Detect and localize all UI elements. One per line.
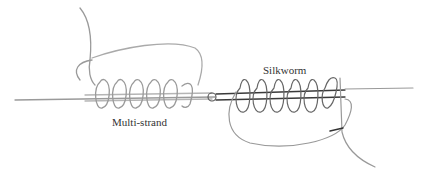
multi-strand-tag-end bbox=[80, 8, 95, 85]
knot-drawing bbox=[0, 0, 425, 177]
silkworm-standing-line bbox=[345, 88, 413, 89]
silkworm-line-lower bbox=[216, 97, 345, 100]
multi-strand-label: Multi-strand bbox=[112, 116, 167, 128]
silkworm-tag-end bbox=[340, 78, 375, 167]
silkworm-label: Silkworm bbox=[263, 64, 306, 76]
knot-diagram: Multi-strand Silkworm bbox=[0, 0, 425, 177]
